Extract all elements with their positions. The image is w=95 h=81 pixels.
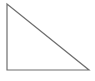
triangle-shape xyxy=(7,4,89,70)
right-triangle-figure xyxy=(0,0,95,81)
figure-canvas xyxy=(0,0,95,81)
